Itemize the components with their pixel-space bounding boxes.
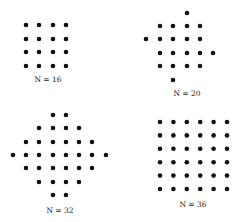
label-n36: N = 36 — [179, 200, 206, 209]
dot — [198, 133, 203, 138]
dot — [211, 147, 216, 152]
dot — [37, 37, 42, 42]
dot — [158, 51, 163, 56]
dot — [198, 187, 203, 192]
dot — [24, 140, 29, 145]
dot — [37, 23, 42, 28]
dot — [225, 133, 230, 138]
dot — [158, 133, 163, 138]
label-n20: N = 20 — [173, 89, 200, 98]
panel-n20 — [144, 11, 216, 83]
dot — [198, 51, 203, 56]
dot — [37, 180, 42, 185]
dot — [37, 50, 42, 55]
dot — [37, 166, 42, 171]
dot — [225, 160, 230, 165]
dot — [185, 120, 190, 125]
dot — [51, 50, 56, 55]
dot — [171, 51, 176, 56]
dot — [158, 147, 163, 152]
dot — [51, 193, 56, 198]
panel-n16 — [24, 23, 69, 69]
dot — [51, 126, 56, 131]
dot — [171, 160, 176, 165]
dot — [77, 180, 82, 185]
dot — [77, 126, 82, 131]
dot — [158, 64, 163, 69]
dot — [198, 160, 203, 165]
dot — [64, 50, 69, 55]
dot — [24, 153, 29, 158]
panel-n36 — [158, 120, 230, 192]
dot-pattern-figure: N = 16 N = 20 N = 32 N = 36 — [0, 0, 240, 222]
dot — [225, 173, 230, 178]
dot — [158, 173, 163, 178]
dot — [24, 50, 29, 55]
dot — [171, 133, 176, 138]
dot — [64, 193, 69, 198]
dot — [171, 187, 176, 192]
dot — [211, 173, 216, 178]
dot — [211, 120, 216, 125]
label-n32: N = 32 — [46, 206, 73, 215]
dot — [211, 160, 216, 165]
dot — [185, 187, 190, 192]
dot — [185, 64, 190, 69]
dot — [64, 140, 69, 145]
dot — [77, 166, 82, 171]
dot — [185, 51, 190, 56]
dot — [198, 64, 203, 69]
dot — [24, 23, 29, 28]
dot — [171, 78, 176, 83]
dot — [64, 153, 69, 158]
dot — [185, 133, 190, 138]
dot — [185, 24, 190, 29]
dot — [171, 24, 176, 29]
dot — [24, 64, 29, 69]
dot — [51, 140, 56, 145]
dot — [64, 113, 69, 118]
label-n16: N = 16 — [34, 75, 61, 84]
dot — [104, 153, 109, 158]
dot — [198, 37, 203, 42]
dot — [64, 64, 69, 69]
dot — [171, 147, 176, 152]
dot — [225, 187, 230, 192]
dot — [37, 140, 42, 145]
dot — [198, 24, 203, 29]
dot — [158, 24, 163, 29]
panel-n32 — [11, 113, 109, 198]
dot — [198, 147, 203, 152]
dot — [64, 180, 69, 185]
dot — [185, 11, 190, 16]
dot — [198, 120, 203, 125]
dot — [185, 37, 190, 42]
dot — [185, 173, 190, 178]
dot — [37, 64, 42, 69]
dot — [77, 140, 82, 145]
dot — [51, 153, 56, 158]
dot — [158, 37, 163, 42]
dot — [37, 153, 42, 158]
dot — [51, 180, 56, 185]
dot — [225, 120, 230, 125]
dot — [171, 120, 176, 125]
dot — [90, 140, 95, 145]
dot — [158, 160, 163, 165]
dot — [51, 64, 56, 69]
dot — [51, 23, 56, 28]
dot — [64, 126, 69, 131]
dot — [158, 187, 163, 192]
dot — [51, 166, 56, 171]
dot — [144, 37, 149, 42]
dot — [158, 120, 163, 125]
dot — [171, 64, 176, 69]
dot — [211, 133, 216, 138]
dot — [51, 113, 56, 118]
dot — [51, 37, 56, 42]
dot — [24, 37, 29, 42]
dot — [185, 147, 190, 152]
dot — [211, 187, 216, 192]
dot — [37, 126, 42, 131]
dot — [64, 37, 69, 42]
